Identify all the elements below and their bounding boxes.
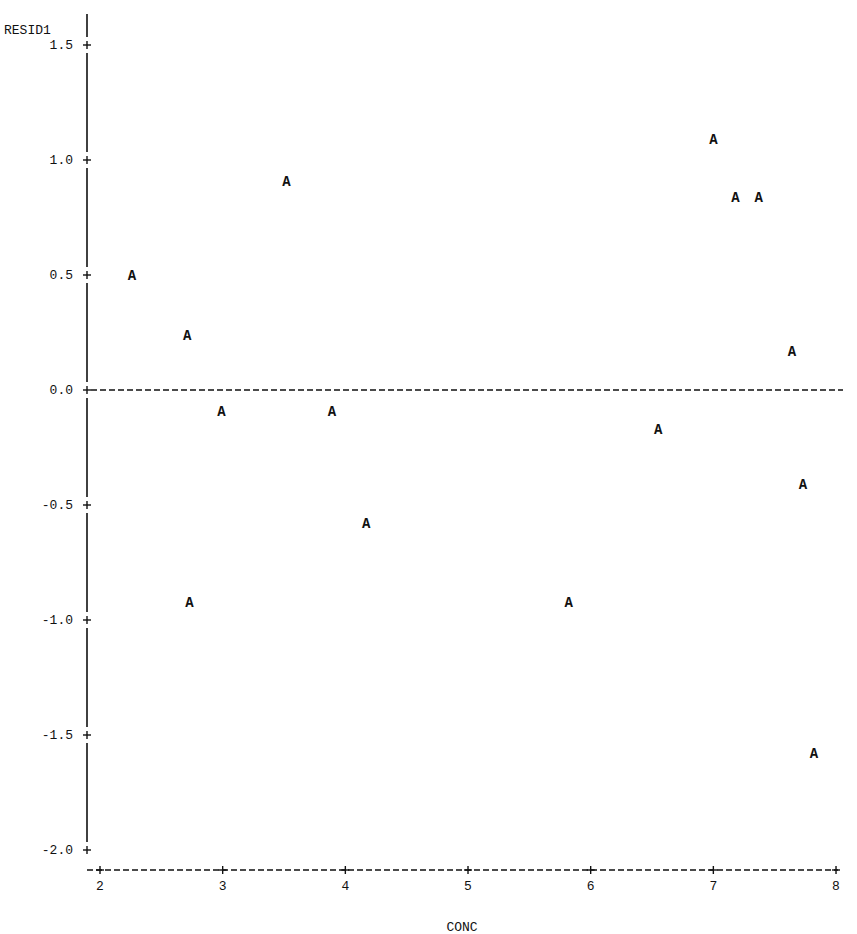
x-tick-label: 2 [96,879,104,894]
y-tick-label: 0.5 [50,268,73,283]
y-tick-label: 1.0 [50,153,73,168]
data-point-marker: A [788,344,797,360]
x-tick: 3 [219,866,227,894]
x-tick-label: 4 [341,879,349,894]
data-point-marker: A [217,404,226,420]
y-tick-label: -0.5 [42,498,73,513]
y-axis-label: RESID1 [4,23,51,38]
data-point-marker: A [185,595,194,611]
y-tick: -1.5 [42,727,93,743]
data-point-marker: A [799,477,808,493]
data-point-marker: A [709,132,718,148]
y-tick-label: 0.0 [50,383,73,398]
y-tick: 0.5 [50,267,93,283]
y-tick: -1.0 [42,612,93,628]
data-point-marker: A [564,595,573,611]
data-markers: AAAAAAAAAAAAAAA [128,132,819,762]
y-tick: 1.5 [50,37,93,53]
x-axis: 2345678 [87,866,840,894]
x-tick: 7 [709,866,717,894]
data-point-marker: A [654,422,663,438]
x-tick-label: 5 [464,879,472,894]
y-tick: 0.0 [50,382,93,398]
data-point-marker: A [810,746,819,762]
data-point-marker: A [183,328,192,344]
data-point-marker: A [282,174,291,190]
x-tick-label: 8 [832,879,840,894]
x-tick-label: 7 [709,879,717,894]
y-tick: 1.0 [50,152,93,168]
y-tick-label: 1.5 [50,38,73,53]
data-point-marker: A [362,516,371,532]
x-tick: 2 [96,866,104,894]
y-tick-label: -2.0 [42,843,73,858]
x-tick-label: 3 [219,879,227,894]
x-axis-label: CONC [446,920,477,934]
data-point-marker: A [128,268,137,284]
y-tick-label: -1.0 [42,613,73,628]
x-tick: 4 [341,866,349,894]
data-point-marker: A [755,190,764,206]
y-tick: -2.0 [42,842,93,858]
x-tick: 6 [587,866,595,894]
x-tick: 5 [464,866,472,894]
x-tick: 8 [832,866,840,894]
y-axis: 1.51.00.50.0-0.5-1.0-1.5-2.0 [42,14,93,858]
data-point-marker: A [328,404,337,420]
data-point-marker: A [731,190,740,206]
y-tick-label: -1.5 [42,728,73,743]
x-tick-label: 6 [587,879,595,894]
residual-scatter-plot: RESID1 1.51.00.50.0-0.5-1.0-1.5-2.0 2345… [0,0,857,934]
y-tick: -0.5 [42,497,93,513]
